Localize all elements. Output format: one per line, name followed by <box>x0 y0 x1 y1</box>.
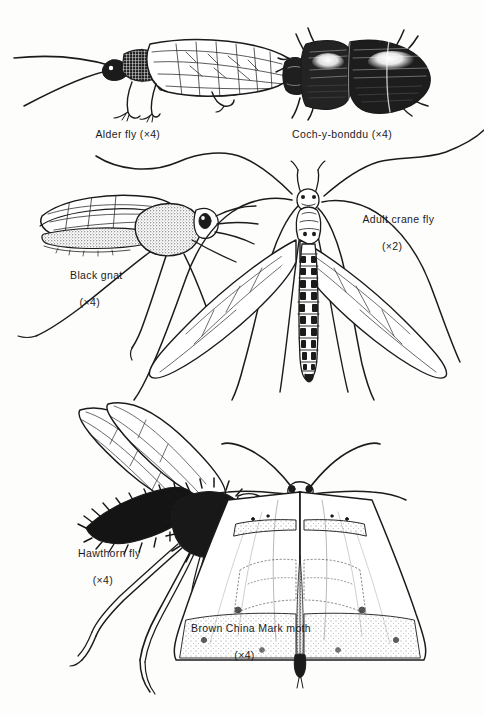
caption-black-gnat: Black gnat (×4) <box>57 255 123 336</box>
coch-y-bonddu-illustration <box>276 28 430 120</box>
caption-adult-crane-fly: Adult crane fly (×2) <box>350 199 434 280</box>
insect-plate: Alder fly (×4) Coch-y-bonddu (×4) Black … <box>0 0 484 715</box>
caption-adult-crane-fly-line1: Adult crane fly <box>363 213 435 225</box>
alder-fly-illustration <box>14 40 295 122</box>
caption-brown-china-mark-moth: Brown China Mark moth (×4) <box>178 608 311 689</box>
caption-brown-china-mark-moth-line2: (×4) <box>178 649 311 663</box>
caption-alder-fly: Alder fly (×4) <box>83 114 160 155</box>
caption-black-gnat-line1: Black gnat <box>70 269 123 281</box>
caption-hawthorn-fly-line1: Hawthorn fly <box>78 547 141 559</box>
caption-alder-fly-line1: Alder fly (×4) <box>96 128 161 140</box>
caption-adult-crane-fly-line2: (×2) <box>350 240 434 254</box>
caption-hawthorn-fly-line2: (×4) <box>65 574 141 588</box>
caption-coch-y-bonddu-line1: Coch-y-bonddu (×4) <box>292 128 392 140</box>
caption-coch-y-bonddu: Coch-y-bonddu (×4) <box>279 114 392 155</box>
caption-brown-china-mark-moth-line1: Brown China Mark moth <box>191 622 311 634</box>
caption-hawthorn-fly: Hawthorn fly (×4) <box>65 533 141 614</box>
caption-black-gnat-line2: (×4) <box>57 296 123 310</box>
